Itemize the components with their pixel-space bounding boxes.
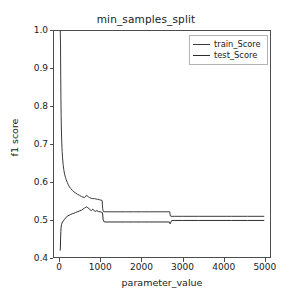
legend-label-train-score: train_Score	[214, 39, 261, 50]
y-tick-label: 0.9	[0, 63, 48, 73]
y-tick-label: 0.5	[0, 215, 48, 225]
x-axis-label: parameter_value	[53, 277, 271, 288]
x-tick-mark	[59, 258, 60, 262]
figure-canvas: min_samples_split f1 score parameter_val…	[0, 0, 292, 302]
y-tick-label: 0.8	[0, 101, 48, 111]
x-tick-mark	[265, 258, 266, 262]
y-tick-mark	[50, 30, 54, 31]
y-tick-mark	[50, 106, 54, 107]
y-tick-mark	[50, 182, 54, 183]
x-tick-mark	[100, 258, 101, 262]
y-tick-label: 0.7	[0, 139, 48, 149]
y-tick-label: 1.0	[0, 25, 48, 35]
legend-label-test-score: test_Score	[214, 50, 257, 61]
legend-swatch-train-score	[193, 44, 210, 45]
legend-item-train-score: train_Score	[193, 39, 263, 50]
y-tick-label: 0.6	[0, 177, 48, 187]
y-tick-mark	[50, 258, 54, 259]
y-tick-mark	[50, 220, 54, 221]
x-tick-mark	[141, 258, 142, 262]
x-tick-label: 5000	[235, 262, 292, 272]
y-tick-mark	[50, 68, 54, 69]
chart-title: min_samples_split	[0, 13, 292, 25]
y-tick-mark	[50, 144, 54, 145]
legend-item-test-score: test_Score	[193, 50, 263, 61]
legend-box: train_Score test_Score	[189, 35, 268, 65]
legend-swatch-test-score	[193, 55, 210, 56]
series-line-test-score	[60, 207, 264, 250]
x-tick-mark	[224, 258, 225, 262]
x-tick-mark	[183, 258, 184, 262]
